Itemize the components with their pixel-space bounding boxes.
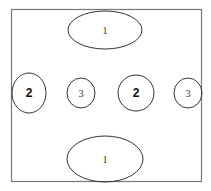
left-circle-3-label: 3 bbox=[78, 87, 84, 99]
bottom-ellipse-label: 1 bbox=[102, 153, 108, 165]
top-ellipse: 1 bbox=[68, 11, 142, 49]
top-ellipse-label: 1 bbox=[102, 24, 108, 36]
right-circle-3: 3 bbox=[174, 78, 202, 108]
right-circle-2: 2 bbox=[118, 75, 154, 111]
left-circle-2-label: 2 bbox=[26, 86, 33, 100]
left-circle-3: 3 bbox=[67, 78, 95, 108]
right-circle-2-label: 2 bbox=[133, 86, 140, 100]
diagram-canvas: 1 2 3 2 3 1 bbox=[0, 0, 211, 191]
bottom-ellipse: 1 bbox=[67, 136, 143, 182]
left-circle-2: 2 bbox=[12, 73, 46, 113]
right-circle-3-label: 3 bbox=[185, 87, 191, 99]
